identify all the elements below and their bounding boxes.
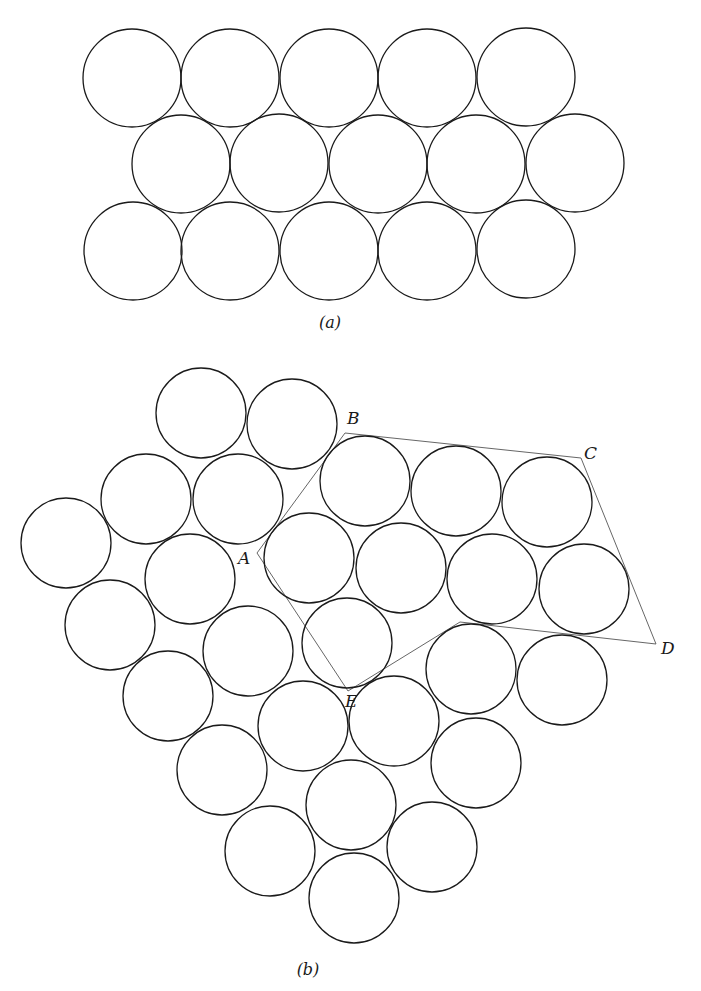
vertex-label-a: A: [236, 548, 250, 568]
panel-b-circle: [177, 725, 267, 815]
panel-b-circle: [539, 544, 629, 634]
panel-a-caption: (a): [319, 313, 341, 332]
panel-a-square-packing: [83, 28, 624, 300]
panel-a-circle: [329, 115, 427, 213]
panel-b-circle: [411, 446, 501, 536]
panel-b-circle: [247, 379, 337, 469]
panel-b-circle: [309, 853, 399, 943]
panel-b-circle: [101, 454, 191, 544]
panel-b-circle: [320, 436, 410, 526]
panel-b-circle: [156, 368, 246, 458]
panel-b-circle: [431, 718, 521, 808]
panel-a-circle: [181, 202, 279, 300]
vertex-labels: ABCDE: [236, 408, 675, 711]
panel-a-circle: [280, 29, 378, 127]
panel-a-circle: [181, 29, 279, 127]
panel-a-circle: [280, 202, 378, 300]
panel-a-circle: [83, 29, 181, 127]
panel-b-caption: (b): [297, 960, 320, 979]
panel-b-circle: [65, 580, 155, 670]
panel-b-circle: [203, 606, 293, 696]
panel-b-circle: [447, 534, 537, 624]
panel-b-circle: [387, 802, 477, 892]
panel-b-circle: [145, 534, 235, 624]
panel-b-circle: [426, 624, 516, 714]
panel-b-circle: [502, 457, 592, 547]
panel-a-circle: [378, 29, 476, 127]
panel-b-circle: [258, 681, 348, 771]
vertex-label-d: D: [660, 638, 675, 658]
panel-b-circle: [517, 635, 607, 725]
panel-b-circle: [356, 523, 446, 613]
panel-b-circle: [302, 598, 392, 688]
panel-a-circle: [132, 115, 230, 213]
panel-b-circle: [349, 676, 439, 766]
vertex-label-b: B: [346, 408, 360, 428]
panel-a-circle: [378, 202, 476, 300]
panel-b-circle: [123, 651, 213, 741]
vertex-label-c: C: [584, 443, 597, 463]
panel-a-circle: [526, 114, 624, 212]
panel-a-circle: [427, 115, 525, 213]
panel-b-circle: [264, 513, 354, 603]
panel-b-circle: [225, 806, 315, 896]
panel-a-circle: [477, 28, 575, 126]
panel-a-circle: [477, 200, 575, 298]
panel-b-circle: [193, 454, 283, 544]
panel-b-circle: [306, 760, 396, 850]
unit-cell-outline: [257, 433, 656, 691]
panel-b-hexagonal-packing: ABCDE: [21, 368, 675, 943]
panel-a-circle: [84, 202, 182, 300]
circle-packing-figure: (a) ABCDE (b): [0, 0, 701, 991]
panel-a-circle: [230, 114, 328, 212]
vertex-label-e: E: [344, 691, 358, 711]
panel-b-circle: [21, 498, 111, 588]
